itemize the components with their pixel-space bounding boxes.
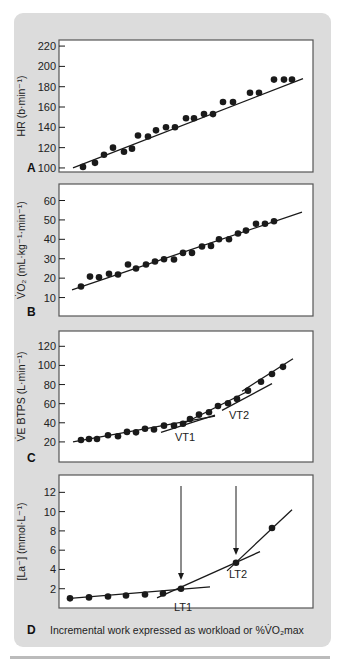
y-tick-label: 120 [38, 142, 56, 154]
data-point [133, 265, 140, 272]
data-point [163, 124, 170, 131]
data-point [245, 387, 252, 394]
data-point [215, 403, 222, 410]
y-tick-label: 4 [50, 563, 56, 575]
y-tick-label: 80 [44, 379, 56, 391]
data-point [161, 256, 168, 263]
data-point [183, 115, 190, 122]
y-tick-label: 200 [38, 60, 56, 72]
y-tick-label: 20 [44, 436, 56, 448]
data-point [153, 127, 160, 134]
data-point [208, 243, 215, 250]
data-point [125, 261, 132, 268]
y-tick-label: 100 [38, 162, 56, 174]
y-tick-label: 100 [38, 359, 56, 371]
x-axis-caption-text: Incremental work expressed as workload o… [50, 624, 305, 636]
panel-letter-c: C [27, 451, 36, 465]
panel-letter-b: B [27, 305, 36, 319]
y-tick-label: 220 [38, 40, 56, 52]
data-point [110, 144, 117, 151]
data-point [269, 371, 276, 378]
data-point [269, 525, 276, 532]
panel-letter-a: A [27, 161, 36, 175]
y-axis-label: V̇O₂ (mL·kg⁻¹·min⁻¹) [15, 201, 27, 299]
data-point [243, 227, 250, 234]
data-point [225, 400, 232, 407]
data-point [121, 148, 128, 155]
y-axis-label: V̇E BTPS (L·min⁻¹) [15, 351, 27, 441]
data-point [143, 261, 150, 268]
data-point [129, 145, 136, 152]
data-point [105, 432, 112, 439]
data-point [281, 76, 288, 83]
data-point [289, 76, 296, 83]
data-point [253, 220, 260, 227]
data-point [142, 426, 149, 433]
y-tick-label: 180 [38, 81, 56, 93]
plot-area [59, 40, 313, 172]
data-point [271, 218, 278, 225]
data-point [123, 592, 130, 599]
data-point [124, 429, 131, 436]
panel-letter-d: D [27, 623, 36, 637]
data-point [115, 271, 122, 278]
data-point [220, 99, 227, 106]
y-tick-label: 140 [38, 121, 56, 133]
y-tick-label: 12 [44, 486, 56, 498]
data-point [280, 364, 287, 371]
data-point [171, 422, 178, 429]
plot-area [59, 475, 313, 608]
data-point [145, 133, 152, 140]
data-point [80, 164, 87, 171]
data-point [256, 90, 263, 97]
data-point [94, 436, 101, 443]
data-point [206, 409, 213, 416]
panel-b: 102030405060V̇O₂ (mL·kg⁻¹·min⁻¹)B [15, 184, 313, 319]
data-point [101, 151, 108, 158]
data-point [172, 124, 179, 131]
data-point [180, 420, 187, 427]
data-point [67, 595, 74, 602]
y-tick-label: 10 [44, 292, 56, 304]
data-point [187, 416, 194, 423]
y-tick-label: 30 [44, 253, 56, 265]
data-point [151, 426, 158, 433]
data-point [271, 76, 278, 83]
x-axis-caption: D Incremental work expressed as workload… [27, 623, 305, 637]
y-tick-label: 20 [44, 272, 56, 284]
data-point [78, 283, 85, 290]
data-point [160, 590, 167, 597]
figure: 100120140160180200220HR (b·min⁻¹)A102030… [0, 0, 340, 659]
y-tick-label: 2 [50, 583, 56, 595]
y-axis-label: [La⁻] (mmol·L⁻¹) [15, 503, 27, 581]
data-point [105, 593, 112, 600]
y-tick-label: 40 [44, 417, 56, 429]
y-tick-label: 8 [50, 525, 56, 537]
panel-c: 20406080100120V̇E BTPS (L·min⁻¹)CVT1VT2 [15, 331, 313, 465]
data-point [233, 559, 240, 566]
data-point [234, 396, 241, 403]
data-point [196, 411, 203, 418]
data-point [142, 591, 149, 598]
data-point [161, 422, 168, 429]
panel-d: 24681012[La⁻] (mmol·L⁻¹)LT1LT2 [15, 475, 313, 613]
data-point [115, 433, 122, 440]
data-point [106, 270, 113, 277]
threshold-label-vt1: VT1 [175, 431, 195, 443]
plot-area [59, 184, 313, 316]
data-point [86, 436, 93, 443]
y-tick-label: 60 [44, 398, 56, 410]
data-point [258, 378, 265, 385]
data-point [262, 220, 269, 227]
data-point [133, 429, 140, 436]
data-point [191, 115, 198, 122]
y-tick-label: 10 [44, 506, 56, 518]
data-point [178, 585, 185, 592]
data-point [152, 258, 159, 265]
data-point [226, 236, 233, 243]
data-point [180, 250, 187, 257]
threshold-label-vt2: VT2 [229, 409, 249, 421]
data-point [92, 160, 99, 167]
y-tick-label: 40 [44, 233, 56, 245]
data-point [201, 111, 208, 118]
